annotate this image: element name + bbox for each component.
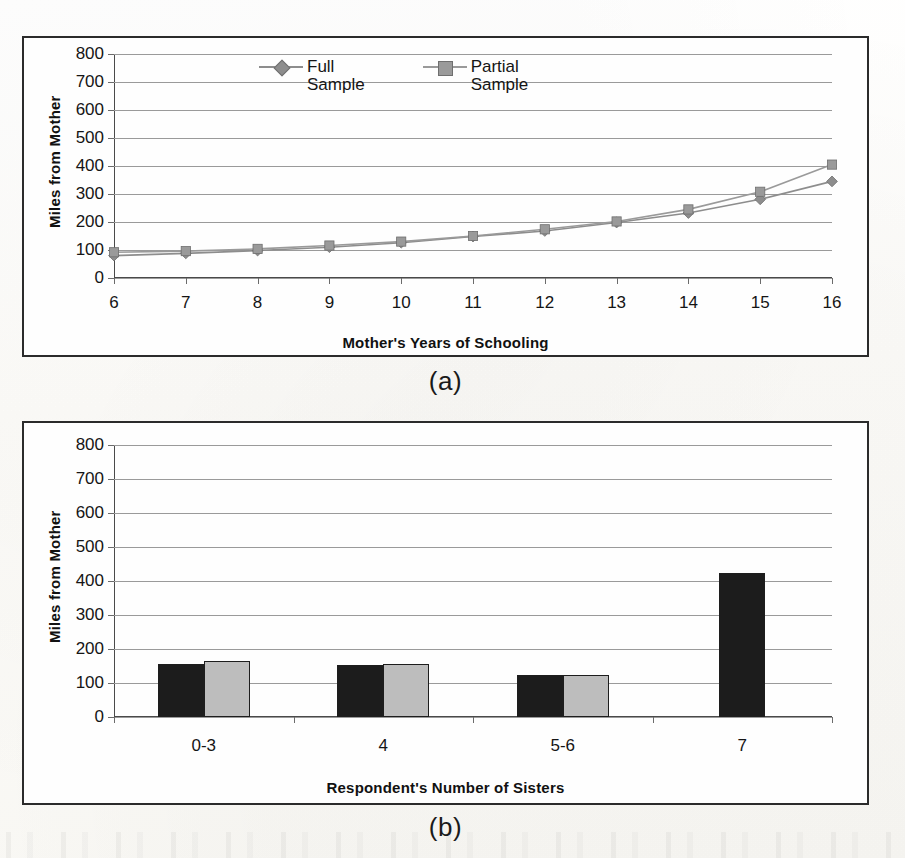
chart-b-y-tick	[108, 683, 114, 684]
chart-a-data-point	[181, 247, 190, 256]
chart-a-y-tick-label: 500	[58, 129, 104, 146]
chart-b-bar	[337, 665, 383, 717]
chart-b-y-tick	[108, 649, 114, 650]
chart-panel-a: Miles from Mother FullSamplePartialSampl…	[22, 36, 869, 357]
chart-b-gridline	[114, 513, 832, 514]
chart-b-y-tick-label: 300	[58, 606, 104, 623]
chart-b-y-tick-label: 500	[58, 538, 104, 555]
chart-b-bar	[383, 664, 429, 717]
chart-a-x-tick-label: 8	[233, 294, 283, 311]
chart-b-gridline	[114, 547, 832, 548]
chart-a-data-point	[325, 241, 334, 250]
chart-b-x-tick	[653, 717, 654, 723]
chart-a-y-tick-label: 100	[58, 241, 104, 258]
chart-a-data-point	[827, 176, 838, 187]
chart-a-y-tick-label: 0	[58, 269, 104, 286]
chart-b-bar	[719, 573, 765, 718]
chart-b-x-tick	[114, 717, 115, 723]
chart-a-data-point	[253, 244, 262, 253]
chart-a-legend-item-1[interactable]: FullSample	[259, 58, 365, 95]
chart-b-x-tick	[832, 717, 833, 723]
chart-b-bar	[204, 661, 250, 717]
chart-b-y-tick	[108, 445, 114, 446]
chart-a-x-tick	[329, 278, 330, 284]
chart-a-legend-label-2: PartialSample	[471, 58, 529, 95]
legend-label-line: Sample	[471, 76, 529, 94]
chart-b-bar	[517, 675, 563, 717]
chart-b-bar	[563, 675, 609, 718]
chart-a-y-tick-label: 200	[58, 213, 104, 230]
chart-b-x-tick-label: 5-6	[518, 737, 608, 754]
chart-a-x-tick	[545, 278, 546, 284]
chart-a-x-tick	[760, 278, 761, 284]
chart-b-x-axis-title: Respondent's Number of Sisters	[24, 779, 867, 796]
chart-a-x-tick	[186, 278, 187, 284]
chart-a-data-point	[468, 231, 477, 240]
chart-a-x-tick-label: 14	[663, 294, 713, 311]
chart-a-x-tick-label: 7	[161, 294, 211, 311]
chart-a-x-tick	[617, 278, 618, 284]
chart-a-y-tick-label: 700	[58, 73, 104, 90]
chart-a-data-point	[109, 248, 118, 257]
chart-a-x-axis-title: Mother's Years of Schooling	[24, 334, 867, 351]
chart-a-legend-label-1: FullSample	[307, 58, 365, 95]
chart-a-x-tick-label: 13	[592, 294, 642, 311]
chart-a-x-tick	[401, 278, 402, 284]
chart-a-x-tick-label: 16	[807, 294, 857, 311]
chart-b-y-tick-label: 700	[58, 470, 104, 487]
chart-a-series-line-1	[114, 181, 832, 255]
legend-diamond-marker-icon	[259, 59, 303, 75]
chart-a-x-tick	[258, 278, 259, 284]
chart-a-x-tick-label: 6	[89, 294, 139, 311]
chart-a-legend: FullSamplePartialSample	[259, 58, 528, 95]
chart-b-y-tick	[108, 581, 114, 582]
chart-b-y-tick-label: 100	[58, 674, 104, 691]
chart-b-x-tick-label: 4	[338, 737, 428, 754]
chart-a-x-tick-label: 11	[448, 294, 498, 311]
legend-label-line: Full	[307, 58, 365, 76]
chart-a-data-point	[827, 160, 836, 169]
chart-b-y-tick	[108, 547, 114, 548]
legend-label-line: Sample	[307, 76, 365, 94]
chart-a-y-tick-label: 400	[58, 157, 104, 174]
figure-page: Miles from Mother FullSamplePartialSampl…	[0, 0, 905, 858]
chart-b-y-tick-label: 0	[58, 708, 104, 725]
chart-a-x-tick	[688, 278, 689, 284]
chart-a-y-tick-label: 800	[58, 45, 104, 62]
chart-b-gridline	[114, 479, 832, 480]
chart-a-data-point	[612, 217, 621, 226]
chart-a-data-point	[397, 237, 406, 246]
chart-b-x-tick-label: 7	[697, 737, 787, 754]
legend-square-marker-icon	[423, 59, 467, 75]
chart-a-y-tick-label: 600	[58, 101, 104, 118]
chart-a-x-tick	[832, 278, 833, 284]
figure-caption-a: (a)	[22, 366, 869, 397]
chart-a-x-tick-label: 10	[376, 294, 426, 311]
chart-a-data-point	[684, 205, 693, 214]
chart-b-y-tick	[108, 615, 114, 616]
chart-a-data-point	[756, 187, 765, 196]
chart-a-x-tick-label: 15	[735, 294, 785, 311]
chart-b-plot-area	[114, 445, 832, 717]
chart-a-x-tick	[473, 278, 474, 284]
chart-b-y-tick	[108, 479, 114, 480]
chart-b-y-tick-label: 400	[58, 572, 104, 589]
chart-b-gridline	[114, 445, 832, 446]
chart-b-y-tick-label: 200	[58, 640, 104, 657]
chart-a-data-point	[540, 225, 549, 234]
legend-label-line: Partial	[471, 58, 529, 76]
chart-b-x-tick	[473, 717, 474, 723]
chart-panel-b: Miles from Mother Respondent's Number of…	[22, 421, 869, 805]
chart-a-x-tick	[114, 278, 115, 284]
chart-b-y-tick-label: 600	[58, 504, 104, 521]
chart-b-x-tick-label: 0-3	[159, 737, 249, 754]
scan-bleedthrough-artifact	[0, 832, 905, 858]
chart-a-legend-item-2[interactable]: PartialSample	[423, 58, 529, 95]
chart-b-y-tick	[108, 513, 114, 514]
chart-b-x-tick	[294, 717, 295, 723]
chart-a-x-tick-label: 12	[520, 294, 570, 311]
chart-b-y-tick-label: 800	[58, 436, 104, 453]
chart-a-x-tick-label: 9	[304, 294, 354, 311]
chart-a-y-tick-label: 300	[58, 185, 104, 202]
chart-b-bar	[158, 664, 204, 717]
